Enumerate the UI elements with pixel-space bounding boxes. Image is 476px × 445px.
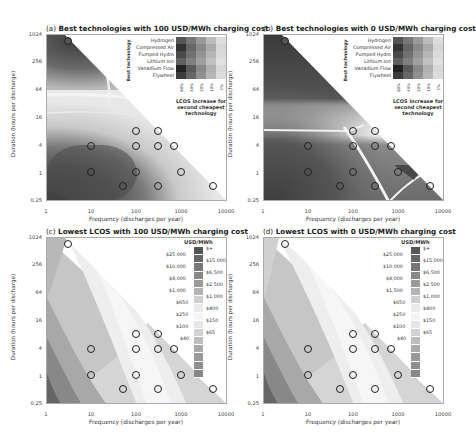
tech-marker xyxy=(387,345,395,353)
tech-marker xyxy=(371,385,379,393)
tech-marker xyxy=(336,385,344,393)
tech-marker xyxy=(281,37,289,45)
y-tick: 256 xyxy=(22,261,42,267)
y-tick: 256 xyxy=(239,261,259,267)
tech-marker xyxy=(304,345,312,353)
y-tick: 64 xyxy=(22,289,42,295)
x-tick: 10 xyxy=(76,208,106,214)
y-tick: 4 xyxy=(22,142,42,148)
y-axis-label: Duration (hours per discharge) xyxy=(10,54,16,174)
y-tick: 256 xyxy=(22,58,42,64)
y-tick: 64 xyxy=(239,289,259,295)
tech-marker xyxy=(371,142,379,150)
tech-marker xyxy=(170,142,178,150)
tech-marker xyxy=(371,127,379,135)
tech-marker xyxy=(119,182,127,190)
colorbar xyxy=(411,247,420,378)
tech-marker xyxy=(371,182,379,190)
tech-marker xyxy=(132,371,140,379)
tech-marker xyxy=(304,142,312,150)
x-tick: 100 xyxy=(121,411,151,417)
tech-marker xyxy=(132,330,140,338)
x-tick: 100 xyxy=(338,208,368,214)
tech-marker xyxy=(87,142,95,150)
tech-marker xyxy=(132,168,140,176)
legend-rows: Hydrogen Compressed Air Pumped Hydro Lit… xyxy=(345,37,391,79)
panel-c: (c) Lowest LCOS with 100 USD/MWh chargin… xyxy=(0,222,240,445)
tech-marker xyxy=(426,182,434,190)
panel-a: (a) Best technologies with 100 USD/MWh c… xyxy=(0,0,240,225)
y-tick: 1024 xyxy=(239,31,259,37)
x-axis-label: Frequency (discharges per year) xyxy=(56,419,216,425)
y-tick: 0.25 xyxy=(22,197,42,203)
legend-pct-labels: 80% 40% 20% 10% 5% xyxy=(393,85,443,90)
y-axis-label: Duration (hours per discharge) xyxy=(10,257,16,377)
tech-marker xyxy=(349,142,357,150)
x-tick: 10000 xyxy=(428,208,458,214)
legend-shade-grid xyxy=(393,37,443,79)
tech-marker xyxy=(349,345,357,353)
x-tick: 1000 xyxy=(383,208,413,214)
y-tick: 0.25 xyxy=(239,197,259,203)
tech-marker xyxy=(177,371,185,379)
tech-marker xyxy=(209,182,217,190)
x-tick: 1 xyxy=(248,208,278,214)
y-tick: 16 xyxy=(239,317,259,323)
tech-marker xyxy=(304,371,312,379)
legend-caption: LCOS increase for second cheapest techno… xyxy=(387,98,449,116)
tech-marker xyxy=(132,142,140,150)
tech-marker xyxy=(336,182,344,190)
panel-b: (b) Best technologies with 0 USD/MWh cha… xyxy=(217,0,471,225)
tech-marker xyxy=(87,168,95,176)
y-axis-label: Duration (hours per discharge) xyxy=(227,257,233,377)
y-tick: 64 xyxy=(22,86,42,92)
x-tick: 1000 xyxy=(383,411,413,417)
tech-marker xyxy=(349,371,357,379)
x-tick: 10000 xyxy=(428,411,458,417)
tech-marker xyxy=(154,345,162,353)
y-tick: 0.25 xyxy=(22,400,42,406)
colorbar-title: USD/MWh xyxy=(401,239,430,245)
tech-marker xyxy=(154,142,162,150)
tech-marker xyxy=(304,168,312,176)
x-tick: 100 xyxy=(121,208,151,214)
colorbar xyxy=(194,247,203,378)
y-tick: 16 xyxy=(239,114,259,120)
x-tick: 10 xyxy=(293,208,323,214)
y-tick: 1024 xyxy=(22,234,42,240)
y-tick: 1024 xyxy=(22,31,42,37)
tech-marker xyxy=(394,168,402,176)
tech-marker xyxy=(177,168,185,176)
tech-marker xyxy=(64,37,72,45)
y-tick: 1 xyxy=(22,170,42,176)
tech-marker xyxy=(349,168,357,176)
tech-marker xyxy=(349,127,357,135)
y-tick: 256 xyxy=(239,58,259,64)
y-tick: 1024 xyxy=(239,234,259,240)
y-tick: 4 xyxy=(22,345,42,351)
tech-marker xyxy=(394,371,402,379)
y-tick: 1 xyxy=(22,373,42,379)
tech-marker xyxy=(64,240,72,248)
tech-marker xyxy=(154,330,162,338)
x-tick: 1 xyxy=(31,208,61,214)
x-tick: 1 xyxy=(31,411,61,417)
tech-marker xyxy=(154,385,162,393)
y-tick: 0.25 xyxy=(239,400,259,406)
tech-marker xyxy=(87,345,95,353)
x-axis-label: Frequency (discharges per year) xyxy=(273,419,433,425)
tech-marker xyxy=(209,385,217,393)
y-tick: 4 xyxy=(239,345,259,351)
y-axis-label: Duration (hours per discharge) xyxy=(227,54,233,174)
x-tick: 1000 xyxy=(166,208,196,214)
colorbar-title: USD/MWh xyxy=(184,239,213,245)
panel-d: (d) Lowest LCOS with 0 USD/MWh charging … xyxy=(217,222,471,445)
tech-marker xyxy=(349,330,357,338)
y-tick: 16 xyxy=(22,114,42,120)
x-tick: 1000 xyxy=(166,411,196,417)
y-tick: 1 xyxy=(239,170,259,176)
tech-marker xyxy=(132,127,140,135)
x-tick: 10 xyxy=(293,411,323,417)
tech-marker xyxy=(371,330,379,338)
tech-marker xyxy=(426,385,434,393)
